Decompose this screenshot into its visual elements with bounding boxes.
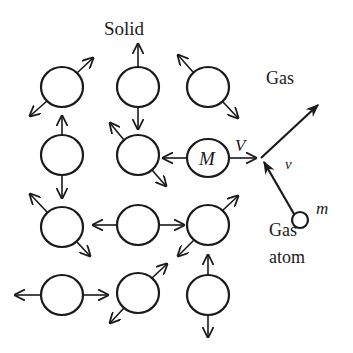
- mass-M-label: M: [198, 148, 216, 169]
- velocity-V-label: V: [235, 136, 248, 155]
- gas-label: Gas: [266, 68, 294, 88]
- gas-outgoing-arrow: [261, 105, 318, 158]
- solid-atom: [187, 67, 229, 107]
- solid-atom: [117, 273, 159, 313]
- solid-atom: [187, 275, 229, 315]
- solid-atom: [41, 275, 83, 315]
- gas-atom-label-line1: Gas: [269, 220, 297, 240]
- solid-label: Solid: [104, 18, 145, 39]
- solid-atom: [41, 67, 83, 107]
- solid-gas-collision-diagram: Solid Gas M V v m Gas atom: [0, 0, 353, 353]
- solid-atom: [117, 67, 159, 107]
- vibration-arrows: [15, 44, 256, 337]
- solid-atom: [117, 135, 159, 175]
- velocity-v-label: v: [285, 156, 292, 172]
- solid-atom: [117, 205, 159, 245]
- gas-atom-label-line2: atom: [269, 247, 305, 267]
- mass-m-label: m: [316, 199, 328, 218]
- solid-atom: [41, 207, 83, 247]
- solid-atom: [41, 135, 83, 175]
